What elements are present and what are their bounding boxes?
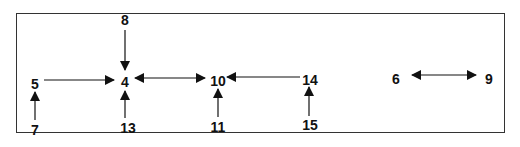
node-11: 11 <box>211 120 226 134</box>
node-4: 4 <box>121 75 129 89</box>
node-10: 10 <box>210 74 226 88</box>
node-14: 14 <box>302 73 318 87</box>
node-15: 15 <box>302 118 318 132</box>
diagram-canvas: 8 5 4 10 14 6 9 7 13 11 15 <box>0 0 520 147</box>
node-13: 13 <box>120 121 136 135</box>
node-8: 8 <box>121 13 129 27</box>
node-7: 7 <box>31 123 39 137</box>
node-5: 5 <box>31 77 39 91</box>
node-9: 9 <box>485 72 493 86</box>
edges-layer <box>0 0 520 147</box>
node-6: 6 <box>392 72 400 86</box>
